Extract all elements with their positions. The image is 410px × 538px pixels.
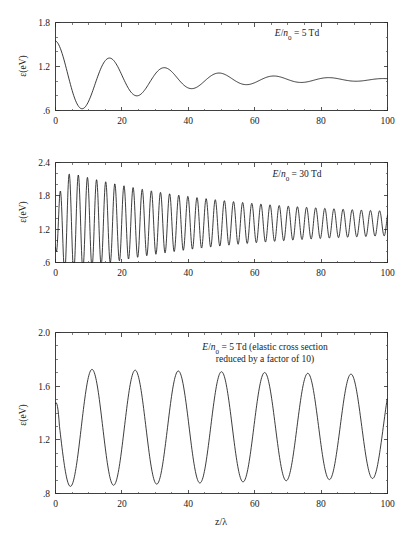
panel-3-svg: 2.0 1.6 1.2 .8 0 20 40 60 80 100 ε(eV) z…	[0, 325, 410, 538]
ytick-label: 1.8	[38, 191, 50, 201]
ytick-label: .6	[43, 258, 50, 268]
xtick-label: 100	[380, 499, 395, 509]
panel-2-svg: 2.4 1.8 1.2 .6 0 20 40 60 80 100 ε(eV) E…	[0, 150, 410, 325]
panel-2-ytick-labels: 2.4 1.8 1.2 .6	[38, 158, 50, 268]
panel-2-curve	[56, 174, 388, 262]
panel-1-ticks	[56, 23, 388, 111]
xtick-label: 40	[184, 499, 194, 509]
panel-2: 2.4 1.8 1.2 .6 0 20 40 60 80 100 ε(eV) E…	[0, 150, 410, 325]
panel-2-xtick-labels: 0 20 40 60 80 100	[53, 268, 395, 278]
xtick-label: 20	[117, 116, 127, 126]
ytick-label: .6	[43, 106, 50, 116]
xtick-label: 0	[53, 499, 58, 509]
xtick-label: 80	[316, 116, 326, 126]
xtick-label: 0	[53, 268, 58, 278]
panel-3-ylabel: ε(eV)	[18, 404, 29, 425]
figure-container: 1.8 1.2 .6 0 20 40 60 80 100 ε(eV) E/n0 …	[0, 0, 410, 538]
ytick-label: .8	[43, 489, 50, 499]
ytick-label: 1.8	[38, 18, 50, 28]
panel-3: 2.0 1.6 1.2 .8 0 20 40 60 80 100 ε(eV) z…	[0, 325, 410, 538]
xtick-label: 60	[250, 268, 260, 278]
ytick-label: 1.2	[38, 435, 50, 445]
panel-3-xlabel: z/λ	[215, 516, 227, 527]
xtick-label: 0	[53, 116, 58, 126]
plot-frame	[56, 163, 388, 263]
xtick-label: 80	[316, 268, 326, 278]
ytick-label: 2.0	[38, 328, 50, 338]
xtick-label: 80	[316, 499, 326, 509]
panel-1-ylabel: ε(eV)	[18, 55, 29, 76]
ytick-label: 2.4	[38, 158, 50, 168]
panel-2-frame	[56, 163, 388, 263]
panel-2-annotation: E/n0 = 30 Td	[271, 169, 321, 183]
panel-3-ytick-labels: 2.0 1.6 1.2 .8	[38, 328, 50, 499]
panel-1-svg: 1.8 1.2 .6 0 20 40 60 80 100 ε(eV) E/n0 …	[0, 0, 410, 150]
panel-3-curve	[56, 369, 388, 486]
panel-3-xtick-labels: 0 20 40 60 80 100	[53, 499, 395, 509]
xtick-label: 40	[184, 116, 194, 126]
panel-1: 1.8 1.2 .6 0 20 40 60 80 100 ε(eV) E/n0 …	[0, 0, 410, 150]
xtick-label: 60	[250, 499, 260, 509]
xtick-label: 60	[250, 116, 260, 126]
ytick-label: 1.2	[38, 225, 50, 235]
panel-2-ylabel: ε(eV)	[18, 201, 29, 222]
xtick-label: 100	[380, 268, 395, 278]
panel-1-xtick-labels: 0 20 40 60 80 100	[53, 116, 395, 126]
panel-1-frame	[56, 23, 388, 111]
panel-1-annotation: E/n0 = 5 Td	[274, 28, 320, 42]
xtick-label: 100	[380, 116, 395, 126]
panel-1-curve	[56, 41, 388, 109]
xtick-label: 20	[117, 268, 127, 278]
plot-frame	[56, 23, 388, 111]
xtick-label: 20	[117, 499, 127, 509]
xtick-label: 40	[184, 268, 194, 278]
panel-1-ytick-labels: 1.8 1.2 .6	[38, 18, 50, 116]
ytick-label: 1.2	[38, 62, 50, 72]
ytick-label: 1.6	[38, 382, 50, 392]
panel-2-ticks	[56, 163, 388, 263]
panel-3-annotation-line2: reduced by a factor of 10)	[216, 354, 314, 365]
